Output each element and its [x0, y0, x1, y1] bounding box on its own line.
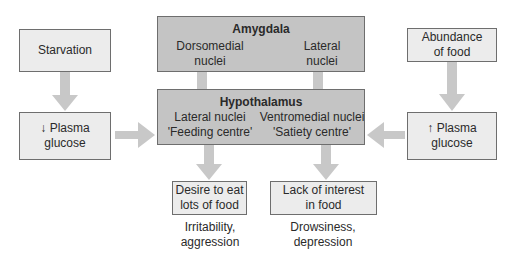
low-glucose-line1: ↓ Plasma — [40, 121, 89, 136]
lack-of-interest-box: Lack of interest in food — [270, 181, 377, 215]
dorsomedial-line2: nuclei — [170, 54, 250, 69]
irritability-caption: Irritability, aggression — [165, 220, 255, 250]
amygdala-box: Amygdala Dorsomedial nuclei Lateral nucl… — [157, 16, 365, 72]
lateral-nuclei-hypothalamus: Lateral nuclei 'Feeding centre' — [160, 110, 260, 140]
dorsomedial-line1: Dorsomedial — [170, 39, 250, 54]
arrow-high-glucose-to-hypothalamus — [367, 122, 405, 148]
lack-line2: in food — [305, 198, 341, 213]
arrow-starvation-to-low-glucose — [52, 72, 78, 111]
high-glucose-line2: glucose — [431, 136, 472, 151]
starvation-label: Starvation — [38, 43, 92, 58]
abundance-line2: of food — [434, 45, 471, 60]
high-glucose-box: ↑ Plasma glucose — [407, 112, 497, 160]
hypothalamus-box: Hypothalamus Lateral nuclei 'Feeding cen… — [157, 89, 365, 145]
lateral-amygdala-line2: nuclei — [282, 54, 362, 69]
irritability-line1: Irritability, — [165, 220, 255, 235]
desire-box: Desire to eat lots of food — [172, 181, 247, 215]
drowsiness-line1: Drowsiness, — [278, 220, 368, 235]
hypothalamus-title: Hypothalamus — [158, 95, 364, 110]
high-glucose-line1: ↑ Plasma — [427, 121, 476, 136]
arrow-abundance-to-high-glucose — [439, 62, 465, 111]
ventromedial-nuclei: Ventromedial nuclei 'Satiety centre' — [258, 110, 366, 140]
lack-line1: Lack of interest — [283, 183, 364, 198]
drowsiness-line2: depression — [278, 235, 368, 250]
feeding-line1: Lateral nuclei — [160, 110, 260, 125]
lateral-amygdala-line1: Lateral — [282, 39, 362, 54]
drowsiness-caption: Drowsiness, depression — [278, 220, 368, 250]
low-glucose-box: ↓ Plasma glucose — [19, 112, 111, 160]
lateral-nuclei-amygdala: Lateral nuclei — [282, 39, 362, 69]
connector-lateral — [313, 72, 323, 89]
dorsomedial-nuclei: Dorsomedial nuclei — [170, 39, 250, 69]
satiety-line2: 'Satiety centre' — [258, 125, 366, 140]
feeding-line2: 'Feeding centre' — [160, 125, 260, 140]
irritability-line2: aggression — [165, 235, 255, 250]
starvation-box: Starvation — [19, 29, 111, 72]
desire-line1: Desire to eat — [175, 183, 243, 198]
arrow-to-desire — [196, 145, 222, 180]
abundance-box: Abundance of food — [407, 28, 497, 62]
amygdala-title: Amygdala — [158, 22, 364, 37]
abundance-line1: Abundance — [422, 30, 483, 45]
arrow-low-glucose-to-hypothalamus — [115, 122, 155, 148]
low-glucose-line2: glucose — [44, 136, 85, 151]
desire-line2: lots of food — [180, 198, 239, 213]
arrow-to-lack-of-interest — [313, 145, 339, 180]
satiety-line1: Ventromedial nuclei — [258, 110, 366, 125]
connector-dorsomedial — [197, 72, 207, 89]
